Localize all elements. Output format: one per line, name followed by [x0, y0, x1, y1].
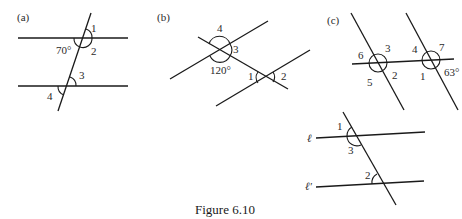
panel-c: (c) 6 3 5 2 4 7 1 63° — [327, 13, 459, 110]
angle-label-3: 3 — [79, 69, 85, 81]
panel-c-label: (c) — [327, 14, 340, 27]
figure-6-10: (a) 1 2 70° 3 4 (b) 4 3 120° 1 2 — [0, 0, 462, 219]
angle-arc-3 — [70, 77, 76, 86]
panel-a: (a) 1 2 70° 3 4 — [17, 11, 128, 111]
line-l-label: ℓ — [307, 132, 312, 144]
angle-label-3: 3 — [233, 43, 239, 55]
line-l-prime — [316, 181, 424, 187]
angle-arc-3 — [230, 44, 232, 56]
angle-label-2: 2 — [281, 70, 287, 82]
transversal-line — [58, 13, 91, 111]
angle-arc-2 — [372, 174, 377, 184]
angle-label-4: 4 — [47, 90, 53, 102]
angle-label-2: 2 — [392, 69, 398, 81]
angle-arc-70 — [74, 38, 80, 47]
angle-label-4: 4 — [217, 22, 223, 34]
angle-arc-120 — [210, 56, 230, 62]
angle-label-3: 3 — [348, 144, 354, 156]
angle-label-1: 1 — [420, 70, 426, 82]
angle-label-6: 6 — [358, 49, 364, 61]
angle-label-70: 70° — [56, 44, 71, 56]
angle-label-120: 120° — [210, 64, 231, 76]
angle-arc-1 — [347, 127, 352, 136]
transversal-line — [343, 112, 396, 205]
panel-b-label: (b) — [157, 11, 170, 24]
angle-label-3: 3 — [385, 42, 391, 54]
panel-b: (b) 4 3 120° 1 2 — [157, 11, 310, 106]
angle-label-1: 1 — [248, 70, 254, 82]
angle-label-7: 7 — [439, 41, 445, 53]
panel-d: ℓ ℓ' 1 3 2 — [305, 112, 425, 205]
angle-label-5: 5 — [367, 76, 373, 88]
angle-label-2: 2 — [91, 45, 97, 57]
angle-label-2: 2 — [365, 169, 371, 181]
panel-a-label: (a) — [17, 11, 30, 24]
angle-arc-4 — [209, 36, 230, 44]
figure-caption: Figure 6.10 — [195, 202, 255, 217]
line-l-prime-label: ℓ' — [305, 180, 313, 192]
transversal-line — [352, 59, 454, 64]
transversal-line — [198, 37, 288, 89]
angle-label-1: 1 — [91, 22, 97, 34]
angle-label-63: 63° — [444, 66, 459, 78]
angle-label-4: 4 — [412, 43, 418, 55]
angle-label-1: 1 — [337, 120, 343, 132]
parallel-line-2 — [216, 50, 310, 106]
angle-arc-4 — [58, 86, 64, 95]
line-l — [316, 132, 425, 138]
